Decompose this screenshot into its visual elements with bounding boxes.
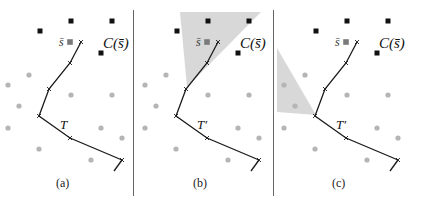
gray-dot-point [142,82,147,87]
gray-dot-point [385,92,390,97]
black-square-point [247,19,252,24]
gray-dot-point [395,135,400,140]
gray-square-point [67,39,73,45]
gray-square-point [343,39,349,45]
cone-label: C(s̄) [379,35,405,52]
gray-dot-point [5,125,10,130]
black-square-point [38,29,43,34]
gray-dot-point [68,92,73,97]
panel-caption: (b) [193,176,207,190]
gray-dot-point [281,125,286,130]
point-label-s-bar: s̄ [335,35,340,49]
path-label: T′ [336,117,346,132]
gray-dot-point [235,125,240,130]
gray-dot-point [88,157,93,162]
black-square-point [345,19,350,24]
black-square-point [110,19,115,24]
gray-dot-point [302,72,307,77]
gray-dot-point [98,125,103,130]
panel-b: s̄C(s̄)T′(b) [142,12,265,190]
gray-dot-point [119,135,124,140]
panel-c: s̄C(s̄)T′(c) [277,19,405,191]
cone-label: C(s̄) [103,35,129,52]
gray-dot-point [312,146,317,151]
black-square-point [206,19,211,24]
gray-dot-point [26,72,31,77]
cone-label: C(s̄) [240,35,266,52]
gray-dot-point [281,82,286,87]
black-square-point [314,29,319,34]
black-square-point [175,29,180,34]
black-square-point [69,19,74,24]
gray-dot-point [5,82,10,87]
gray-dot-point [163,72,168,77]
gray-dot-point [205,92,210,97]
path-label: T′ [197,117,207,132]
gray-square-point [204,39,210,45]
gray-dot-point [142,125,147,130]
trajectory-path [315,42,398,160]
gray-dot-point [344,92,349,97]
panel-caption: (c) [332,176,345,190]
point-label-s-bar: s̄ [59,35,64,49]
gray-dot-point [256,135,261,140]
black-square-point [386,19,391,24]
black-square-point [99,51,104,56]
black-square-point [236,51,241,56]
gray-dot-point [292,103,297,108]
gray-dot-point [364,157,369,162]
figure-three-panels: s̄C(s̄)T(a)s̄C(s̄)T′(b)s̄C(s̄)T′(c) [0,0,421,204]
gray-dot-point [374,125,379,130]
path-label: T [60,117,68,132]
gray-dot-point [225,157,230,162]
gray-dot-point [173,146,178,151]
gray-dot-point [16,103,21,108]
gray-dot-point [246,92,251,97]
gray-dot-point [109,92,114,97]
gray-dot-point [153,103,158,108]
panel-caption: (a) [56,176,69,190]
point-label-s-bar: s̄ [196,35,201,49]
panel-a: s̄C(s̄)T(a) [5,19,128,191]
trajectory-path [39,42,122,160]
black-square-point [375,51,380,56]
gray-dot-point [36,146,41,151]
